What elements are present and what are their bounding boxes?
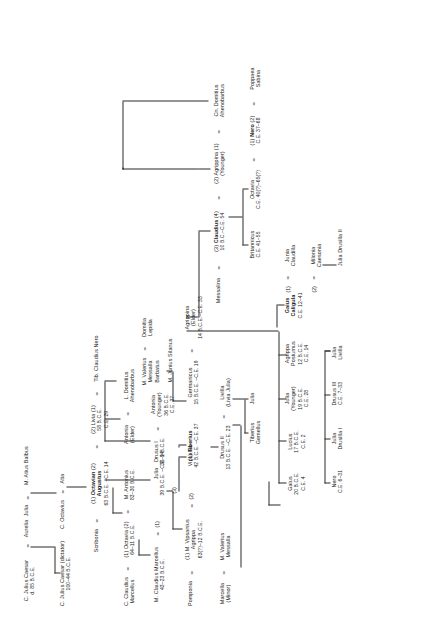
marriage-symbol: = (154, 426, 160, 430)
node-julia-balbus: Julia (22, 499, 28, 521)
connector (276, 305, 277, 327)
connector (242, 244, 248, 245)
person-name-alt: Messalla (224, 525, 230, 567)
connector (244, 398, 248, 399)
connector (122, 168, 198, 169)
marriage-symbol: = (24, 543, 30, 547)
connector (242, 188, 248, 189)
node-julia-drusilla-ii: Julia Drusilla II (336, 221, 342, 273)
marriage-order-label-c2: (2) (310, 286, 316, 292)
marriage-symbol: = (93, 518, 99, 522)
connector (178, 457, 179, 491)
node-julia-livilla: Julia Livilla (330, 337, 343, 367)
connector (232, 398, 244, 399)
person-name: Lucius (286, 423, 292, 459)
connector (122, 101, 123, 169)
marriage-symbol: = (220, 570, 226, 574)
person-name-alt: Gemellus (254, 413, 260, 451)
person-dates: 13 B.C.E. –C.E. 23 (224, 419, 230, 475)
person-name: C. Octavius (58, 493, 64, 535)
node-atia: Atia (58, 469, 64, 487)
connector (324, 394, 330, 395)
person-name-alt: Sabina (254, 58, 260, 98)
person-dates: 19 B.C.E. (296, 379, 302, 417)
person-name: C. Julius Caesar (22, 549, 28, 611)
person-name: Milonia (309, 238, 315, 272)
person-name-alt: Claudilla (289, 238, 295, 272)
connector (112, 512, 122, 513)
person-dates: 63(?)–12 B.C.E. (196, 511, 202, 567)
person-name: Claudius (212, 219, 218, 243)
person-dates: 20 B.C.E. (292, 465, 298, 501)
connector (186, 316, 198, 317)
person-dates-2: C.E. 14 (302, 333, 308, 373)
person-name: M. Junius Silanus (166, 329, 172, 391)
person-name: Julia Drusilla II (336, 221, 342, 273)
node-marcella-minor: Marcella (Minor) (218, 575, 231, 611)
person-dates: 17 B.C.E. (292, 423, 298, 459)
person-name-alt: Caesonia (315, 238, 321, 272)
node-octavia: (1) Octavia (2) 64–11 B.C.E. (122, 515, 135, 563)
marriage-symbol: = (284, 275, 290, 279)
node-m-valerius-barbatus: M. Valerius Messalla Barbatus (140, 351, 159, 391)
person-name: Julia (22, 499, 28, 521)
marriage-order-label-3: (3) (170, 487, 176, 493)
connector (240, 425, 241, 567)
connector (104, 440, 150, 441)
node-agrippa: (1) M. Vipsanius Agrippa 63(?)–12 B.C.E. (183, 511, 202, 567)
person-name-alt: Livilla (336, 337, 342, 367)
marriage-order-2: (2) (248, 115, 254, 122)
connector (172, 491, 173, 529)
person-name: M. Antonius (122, 462, 128, 506)
node-junia-claudilla: Junia Claudilla (283, 238, 296, 272)
person-name: M. Claudius Marcellus (152, 537, 158, 611)
node-atius-balbus: M. Atius Balbus (22, 437, 28, 493)
person-name: M. Valerius (218, 525, 224, 567)
connector (104, 380, 116, 381)
node-julius-caesar-sr: C. Julius Caesar d. 85 B.C.E. (22, 549, 35, 611)
node-julia-younger: Julia (Younger) 19 B.C.E. C.E. 28 (283, 379, 309, 417)
marriage-order-1: (1) (89, 405, 95, 412)
person-name: Octavia (248, 161, 254, 217)
marriage-symbol: = (310, 275, 316, 279)
node-drusus-i: Drusus I 38–9 B.C.E. (152, 431, 165, 471)
node-tiberius: (1) Tiberius 42 B.C.E. –C.E. 37 (186, 415, 199, 475)
person-name: Pomponia (186, 575, 192, 611)
marriage-order-1: (1) (89, 496, 95, 503)
marriage-symbol: = (24, 495, 30, 499)
node-britannicus: Britannicus C.E. 41–55 (248, 221, 261, 267)
marriage-symbol: = (220, 414, 226, 418)
node-c-octavius: C. Octavius (58, 493, 64, 535)
marriage-symbol: = (124, 566, 130, 570)
node-c-claudius-marcellus: C. Claudius Marcellus (122, 571, 135, 611)
node-m-junius-silanus: M. Junius Silanus (166, 329, 172, 391)
node-drusus-iii: Drusus III C.E. 7–33 (330, 373, 343, 413)
person-name: C. Claudius (122, 571, 128, 611)
person-dates: 12 B.C.E. (296, 333, 302, 373)
marriage-symbol: = (188, 348, 194, 352)
person-name: Julia (248, 387, 254, 409)
person-name-alt: (Minor) (224, 575, 230, 611)
marriage-symbol: = (250, 157, 256, 161)
person-dates: 63 B.C.E. –C.E. 14 (102, 450, 108, 516)
connector (54, 572, 60, 573)
node-julia-drusilla-i: Julia Drusilla I (330, 419, 343, 457)
node-antonia-elder: Antonia (Elder) (122, 417, 135, 451)
node-messalina: Messalina (214, 269, 220, 311)
node-cn-domitius-ahenobarbus: Cn. Domitius Ahenobarbus (212, 74, 225, 126)
marriage-symbol: = (124, 411, 130, 415)
node-drusus-ii: Drusus II 13 B.C.E. –C.E. 23 (218, 419, 231, 475)
person-name: Julia (330, 419, 336, 457)
connector (278, 482, 286, 483)
marriage-order-4: (4) (212, 211, 218, 218)
person-dates: 43–23 B.C.E. (158, 537, 164, 611)
person-name: Atia (58, 469, 64, 487)
person-name: Octavian (89, 471, 95, 495)
person-dates: 10 B.C.–C.E. 54 (218, 200, 224, 262)
person-name: Cn. Domitius (212, 74, 218, 126)
person-dates-2: C.E. 4 (299, 465, 305, 501)
marriage-symbol: = (250, 101, 256, 105)
connector (104, 479, 150, 480)
person-name-alt: (Elder) (128, 417, 134, 451)
person-name: Tib. Claudius Nero (92, 327, 98, 389)
